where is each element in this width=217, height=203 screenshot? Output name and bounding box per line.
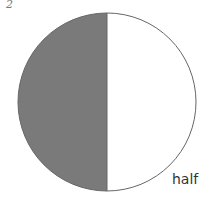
unshaded-half — [107, 13, 196, 191]
fraction-label: half — [172, 171, 198, 187]
shaded-half — [18, 13, 107, 191]
